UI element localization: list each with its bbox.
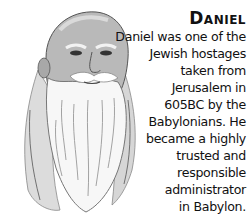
caption-line: in Babylon. (106, 198, 246, 215)
caption-body: Daniel was one of the Jewish hostages ta… (106, 28, 246, 215)
caption-line: administrator (106, 181, 246, 198)
caption-line: taken from (106, 62, 246, 79)
caption-block: Daniel Daniel was one of the Jewish host… (106, 8, 246, 215)
caption-line: 605BC by the (106, 96, 246, 113)
caption-title: Daniel (106, 8, 246, 28)
caption-line: became a highly (106, 130, 246, 147)
caption-line: Jewish hostages (106, 45, 246, 62)
caption-line: responsible (106, 164, 246, 181)
caption-line: Jerusalem in (106, 79, 246, 96)
caption-line: Babylonians. He (106, 113, 246, 130)
caption-line: Daniel was one of the (106, 28, 246, 45)
caption-line: trusted and (106, 147, 246, 164)
